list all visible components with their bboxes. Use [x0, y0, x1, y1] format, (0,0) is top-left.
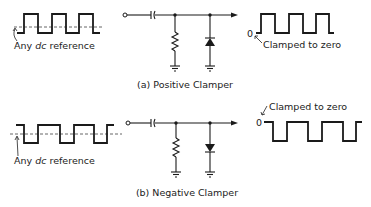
negative-caption: (b) Negative Clamper — [136, 187, 238, 198]
negative-input-label: Any dc reference — [14, 155, 95, 166]
negative-output-waveform — [264, 122, 362, 141]
output-arrow-icon — [231, 121, 238, 126]
output-arrow-icon — [231, 13, 238, 18]
positive-circuit — [123, 11, 238, 71]
diode-icon — [205, 15, 215, 66]
positive-output-waveform — [256, 14, 334, 33]
positive-clamper: Any dc reference — [13, 11, 341, 90]
input-terminal-icon — [123, 13, 127, 17]
capacitor-icon — [151, 11, 155, 19]
positive-caption: (a) Positive Clamper — [137, 79, 233, 90]
positive-zero-label: 0 — [247, 28, 253, 39]
clamper-diagram: Any dc reference — [0, 0, 371, 207]
negative-output-label: Clamped to zero — [269, 101, 347, 112]
ground-icon — [205, 66, 215, 71]
clamped-arrow-icon — [262, 106, 267, 115]
diode-icon — [205, 123, 215, 172]
dc-reference-arrow-icon — [17, 137, 18, 156]
ground-icon — [170, 66, 180, 71]
ground-icon — [171, 172, 181, 177]
negative-circuit — [126, 119, 238, 177]
negative-clamper: Any dc reference — [10, 101, 362, 198]
negative-zero-label: 0 — [256, 117, 262, 128]
resistor-icon — [173, 123, 179, 172]
positive-input-waveform — [14, 14, 104, 33]
capacitor-icon — [151, 119, 155, 127]
input-terminal-icon — [126, 121, 130, 125]
positive-input-label: Any dc reference — [14, 40, 95, 51]
clamped-arrow-icon — [255, 36, 262, 43]
resistor-icon — [172, 15, 178, 66]
positive-output-label: Clamped to zero — [263, 39, 341, 50]
ground-icon — [205, 172, 215, 177]
negative-input-waveform — [10, 125, 122, 143]
